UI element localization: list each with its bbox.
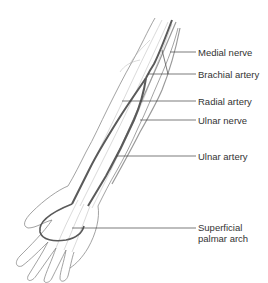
label-ulnar-artery: Ulnar artery	[198, 151, 248, 162]
label-ulnar-nerve: Ulnar nerve	[198, 115, 247, 126]
arteries	[40, 20, 172, 241]
label-superficial-palmar-arch-line1: Superficial	[198, 222, 242, 233]
label-brachial-artery: Brachial artery	[198, 69, 259, 80]
nerves	[110, 22, 180, 184]
label-medial-nerve: Medial nerve	[198, 47, 252, 58]
ulnar-artery-path	[88, 78, 146, 206]
label-superficial-palmar-arch-line2: palmar arch	[198, 233, 248, 244]
arm-outline	[16, 18, 178, 282]
muscle-tendon-lines	[56, 20, 172, 252]
brachial-artery-path	[146, 20, 172, 78]
label-radial-artery: Radial artery	[198, 96, 252, 107]
